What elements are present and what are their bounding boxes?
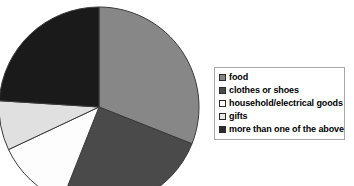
legend-label-clothes-or-shoes: clothes or shoes <box>229 85 299 96</box>
legend-label-more-than-one-of-the-above: more than one of the above <box>229 124 344 135</box>
pie-chart <box>0 0 212 186</box>
legend-swatch-more-than-one-of-the-above <box>219 126 226 133</box>
chart-figure: food clothes or shoes household/electric… <box>0 0 354 186</box>
legend-item-clothes-or-shoes[interactable]: clothes or shoes <box>219 84 340 96</box>
legend-item-gifts[interactable]: gifts <box>219 110 340 122</box>
legend-swatch-clothes-or-shoes <box>219 87 226 94</box>
legend-item-household-electrical-goods[interactable]: household/electrical goods <box>219 97 340 109</box>
chart-legend: food clothes or shoes household/electric… <box>214 67 345 140</box>
legend-swatch-food <box>219 74 226 81</box>
legend-item-more-than-one-of-the-above[interactable]: more than one of the above <box>219 123 340 135</box>
pie-chart-svg <box>0 0 212 186</box>
legend-label-household-electrical-goods: household/electrical goods <box>229 98 343 109</box>
legend-label-food: food <box>229 72 248 83</box>
legend-swatch-household-electrical-goods <box>219 100 226 107</box>
legend-item-food[interactable]: food <box>219 71 340 83</box>
pie-slice-group <box>0 7 199 186</box>
pie-slice[interactable] <box>0 7 99 107</box>
legend-label-gifts: gifts <box>229 111 248 122</box>
legend-swatch-gifts <box>219 113 226 120</box>
